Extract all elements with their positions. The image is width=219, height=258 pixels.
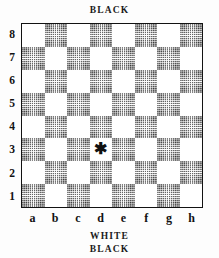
board-square-g4[interactable] bbox=[157, 116, 180, 139]
board-square-b4[interactable] bbox=[45, 116, 68, 139]
board-square-h4[interactable] bbox=[180, 116, 203, 139]
board-square-a2[interactable] bbox=[22, 161, 45, 184]
board-square-h5[interactable] bbox=[180, 93, 203, 116]
board-square-d5[interactable] bbox=[90, 93, 113, 116]
file-label-row: abcdefgh bbox=[21, 210, 203, 226]
file-label-a: a bbox=[21, 210, 44, 226]
file-label-g: g bbox=[158, 210, 181, 226]
board-square-d4[interactable] bbox=[90, 116, 113, 139]
board-square-g1[interactable] bbox=[157, 184, 180, 207]
board-square-h6[interactable] bbox=[180, 70, 203, 93]
rank-label-3: 3 bbox=[4, 139, 20, 162]
file-label-h: h bbox=[180, 210, 203, 226]
rank-label-4: 4 bbox=[4, 116, 20, 139]
file-label-d: d bbox=[89, 210, 112, 226]
board-square-a7[interactable] bbox=[22, 47, 45, 70]
board-square-a3[interactable] bbox=[22, 138, 45, 161]
caption-top-black: BLACK bbox=[0, 4, 219, 16]
chessboard-grid: ✱ bbox=[22, 24, 202, 207]
board-square-f8[interactable] bbox=[135, 24, 158, 47]
board-square-e6[interactable] bbox=[112, 70, 135, 93]
board-square-b7[interactable] bbox=[45, 47, 68, 70]
board-square-h7[interactable] bbox=[180, 47, 203, 70]
file-label-b: b bbox=[44, 210, 67, 226]
board-square-b3[interactable] bbox=[45, 138, 68, 161]
rank-label-2: 2 bbox=[4, 162, 20, 185]
board-square-c6[interactable] bbox=[67, 70, 90, 93]
caption-bottom-white: WHITE bbox=[0, 230, 219, 242]
board-square-d1[interactable] bbox=[90, 184, 113, 207]
board-square-b6[interactable] bbox=[45, 70, 68, 93]
file-label-f: f bbox=[135, 210, 158, 226]
board-square-e7[interactable] bbox=[112, 47, 135, 70]
board-square-a6[interactable] bbox=[22, 70, 45, 93]
rank-label-column: 87654321 bbox=[4, 23, 20, 208]
board-square-e1[interactable] bbox=[112, 184, 135, 207]
board-square-c7[interactable] bbox=[67, 47, 90, 70]
board-square-b5[interactable] bbox=[45, 93, 68, 116]
board-square-g5[interactable] bbox=[157, 93, 180, 116]
rank-label-6: 6 bbox=[4, 69, 20, 92]
board-square-b1[interactable] bbox=[45, 184, 68, 207]
board-square-c5[interactable] bbox=[67, 93, 90, 116]
board-square-b8[interactable] bbox=[45, 24, 68, 47]
rank-label-5: 5 bbox=[4, 92, 20, 115]
board-square-c1[interactable] bbox=[67, 184, 90, 207]
rank-label-7: 7 bbox=[4, 46, 20, 69]
board-square-d7[interactable] bbox=[90, 47, 113, 70]
board-square-d8[interactable] bbox=[90, 24, 113, 47]
board-square-f5[interactable] bbox=[135, 93, 158, 116]
board-square-g7[interactable] bbox=[157, 47, 180, 70]
board-square-g3[interactable] bbox=[157, 138, 180, 161]
file-label-e: e bbox=[112, 210, 135, 226]
board-square-f1[interactable] bbox=[135, 184, 158, 207]
board-square-e3[interactable] bbox=[112, 138, 135, 161]
chess-diagram: BLACK 87654321 ✱ abcdefgh WHITE BLACK bbox=[0, 0, 219, 258]
board-square-f4[interactable] bbox=[135, 116, 158, 139]
board-square-e2[interactable] bbox=[112, 161, 135, 184]
board-square-f6[interactable] bbox=[135, 70, 158, 93]
board-square-e8[interactable] bbox=[112, 24, 135, 47]
board-square-h2[interactable] bbox=[180, 161, 203, 184]
board-square-f7[interactable] bbox=[135, 47, 158, 70]
file-label-c: c bbox=[67, 210, 90, 226]
board-square-c4[interactable] bbox=[67, 116, 90, 139]
board-square-f2[interactable] bbox=[135, 161, 158, 184]
board-square-g8[interactable] bbox=[157, 24, 180, 47]
rank-label-1: 1 bbox=[4, 185, 20, 208]
board-square-g2[interactable] bbox=[157, 161, 180, 184]
board-square-d6[interactable] bbox=[90, 70, 113, 93]
board-square-a5[interactable] bbox=[22, 93, 45, 116]
board-square-h3[interactable] bbox=[180, 138, 203, 161]
board-square-a1[interactable] bbox=[22, 184, 45, 207]
board-square-a4[interactable] bbox=[22, 116, 45, 139]
board-square-b2[interactable] bbox=[45, 161, 68, 184]
board-square-d3[interactable]: ✱ bbox=[90, 138, 113, 161]
square-marker-icon: ✱ bbox=[90, 138, 113, 161]
board-square-c2[interactable] bbox=[67, 161, 90, 184]
board-square-h1[interactable] bbox=[180, 184, 203, 207]
rank-label-8: 8 bbox=[4, 23, 20, 46]
board-square-c8[interactable] bbox=[67, 24, 90, 47]
caption-bottom-black: BLACK bbox=[0, 243, 219, 255]
board-square-e5[interactable] bbox=[112, 93, 135, 116]
chessboard-frame: ✱ bbox=[21, 23, 203, 208]
board-square-d2[interactable] bbox=[90, 161, 113, 184]
board-square-e4[interactable] bbox=[112, 116, 135, 139]
board-square-h8[interactable] bbox=[180, 24, 203, 47]
board-square-a8[interactable] bbox=[22, 24, 45, 47]
board-square-f3[interactable] bbox=[135, 138, 158, 161]
board-square-g6[interactable] bbox=[157, 70, 180, 93]
board-square-c3[interactable] bbox=[67, 138, 90, 161]
